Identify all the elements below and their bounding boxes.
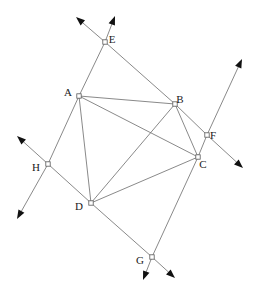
segments-group	[48, 42, 207, 257]
ray-G-downleft-arrow-icon	[143, 270, 149, 280]
segment-f-c	[198, 135, 207, 157]
segment-c-g	[152, 157, 198, 257]
arrowheads-group	[17, 16, 243, 280]
vertex-label-g: G	[136, 254, 144, 266]
vertex-marker-a[interactable]	[77, 94, 81, 98]
rays-group	[21, 23, 238, 272]
vertex-label-e: E	[109, 33, 116, 45]
segment-a-c	[79, 96, 198, 157]
vertex-marker-e[interactable]	[103, 40, 107, 44]
vertex-label-h: H	[32, 161, 40, 173]
segment-d-h	[48, 164, 91, 203]
segment-a-b	[79, 96, 175, 104]
ray-E-upleft-arrow-icon	[76, 17, 85, 25]
geometry-figure-root: ABCDEFGH	[0, 0, 264, 295]
vertex-label-d: D	[75, 200, 83, 212]
vertex-label-c: C	[199, 158, 206, 170]
segment-g-d	[91, 203, 152, 257]
segment-e-b	[105, 42, 175, 104]
vertex-label-a: A	[64, 86, 72, 98]
labels-group: ABCDEFGH	[32, 33, 216, 266]
vertex-marker-g[interactable]	[150, 255, 154, 259]
segment-b-f	[175, 104, 207, 135]
ray-F-upright-arrow-icon	[235, 59, 242, 69]
vertices-group	[46, 40, 209, 259]
ray-E-upright-arrow-icon	[109, 16, 115, 26]
segment-b-c	[175, 104, 198, 157]
ray-F-upright	[207, 67, 238, 135]
vertex-marker-f[interactable]	[205, 133, 209, 137]
segment-h-a	[48, 96, 79, 164]
vertex-marker-h[interactable]	[46, 162, 50, 166]
ray-H-downleft-arrow-icon	[17, 209, 24, 219]
geometry-canvas: ABCDEFGH	[0, 0, 264, 295]
vertex-label-f: F	[210, 129, 216, 141]
segment-c-d	[91, 157, 198, 203]
vertex-marker-d[interactable]	[89, 201, 93, 205]
vertex-label-b: B	[176, 93, 183, 105]
segment-a-e	[79, 42, 105, 96]
segment-d-a	[79, 96, 91, 203]
ray-E-upleft	[83, 23, 105, 42]
segment-b-d	[91, 104, 175, 203]
